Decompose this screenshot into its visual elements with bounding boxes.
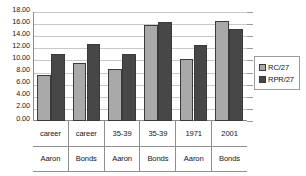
bar bbox=[215, 21, 229, 121]
x-axis-category-label-bottom: Aaron bbox=[105, 147, 140, 172]
x-axis-category-label-top: 35-39 bbox=[105, 121, 140, 147]
x-axis-category-cell: 1971Aaron bbox=[176, 121, 212, 171]
x-axis-category-label-top: 35-39 bbox=[140, 121, 175, 147]
x-axis-category-label-top: career bbox=[33, 121, 68, 147]
legend: RC/27RPR/27 bbox=[254, 56, 300, 90]
bars-layer bbox=[33, 12, 247, 121]
x-axis-category-cell: careerBonds bbox=[69, 121, 105, 171]
bar-group bbox=[104, 12, 140, 121]
bar-group bbox=[176, 12, 212, 121]
legend-item: RC/27 bbox=[259, 61, 294, 73]
x-axis-category-cell: 2001Bonds bbox=[212, 121, 247, 171]
y-axis-tick-label: 10.00 bbox=[12, 52, 30, 61]
bar bbox=[73, 63, 87, 121]
x-axis-category-label-top: 1971 bbox=[176, 121, 211, 147]
x-axis-category-label-bottom: Bonds bbox=[212, 147, 247, 172]
y-axis-tick-label: 8.00 bbox=[16, 65, 30, 74]
right-axis-tick bbox=[247, 97, 253, 98]
right-axis-tick bbox=[247, 24, 253, 25]
right-axis-tick bbox=[247, 121, 253, 122]
right-axis-tick bbox=[247, 48, 253, 49]
x-axis-category-label-bottom: Aaron bbox=[176, 147, 211, 172]
bar-group bbox=[211, 12, 247, 121]
right-axis-tick bbox=[247, 12, 253, 13]
y-axis-tick-label: 16.00 bbox=[12, 16, 30, 25]
bar-group bbox=[140, 12, 176, 121]
x-axis-category-label-bottom: Aaron bbox=[33, 147, 68, 172]
bar bbox=[194, 45, 208, 121]
bar bbox=[37, 75, 51, 121]
bar bbox=[180, 59, 194, 121]
bar bbox=[51, 54, 65, 121]
y-axis: 18.0016.0014.0012.0010.008.006.004.002.0… bbox=[0, 8, 33, 121]
right-axis-tick bbox=[247, 109, 253, 110]
bar bbox=[122, 54, 136, 121]
y-axis-tick-label: 12.00 bbox=[12, 40, 30, 49]
right-axis-tick bbox=[247, 85, 253, 86]
y-axis-tick-label: 0.00 bbox=[16, 113, 30, 122]
bar bbox=[144, 25, 158, 121]
x-axis-category-label-top: career bbox=[69, 121, 104, 147]
bar-chart: 18.0016.0014.0012.0010.008.006.004.002.0… bbox=[0, 0, 306, 176]
bar bbox=[87, 44, 101, 121]
bar-group bbox=[33, 12, 69, 121]
x-axis-category-label-top: 2001 bbox=[212, 121, 247, 147]
x-axis-category-table: careerAaroncareerBonds35-39Aaron35-39Bon… bbox=[33, 121, 247, 172]
right-axis-tick bbox=[247, 36, 253, 37]
y-axis-tick-label: 2.00 bbox=[16, 101, 30, 110]
x-axis-category-label-bottom: Bonds bbox=[140, 147, 175, 172]
bar bbox=[229, 29, 243, 121]
right-axis-tick bbox=[247, 73, 253, 74]
bar bbox=[108, 69, 122, 121]
y-axis-tick-label: 4.00 bbox=[16, 89, 30, 98]
legend-swatch-icon bbox=[259, 64, 266, 71]
legend-item: RPR/27 bbox=[259, 73, 294, 85]
y-axis-tick-label: 14.00 bbox=[12, 28, 30, 37]
x-axis-category-cell: 35-39Aaron bbox=[105, 121, 141, 171]
right-axis-ticks bbox=[247, 12, 254, 122]
y-axis-tick-label: 6.00 bbox=[16, 77, 30, 86]
bar-group bbox=[69, 12, 105, 121]
bar bbox=[158, 22, 172, 121]
x-axis-category-cell: 35-39Bonds bbox=[140, 121, 176, 171]
right-axis-tick bbox=[247, 60, 253, 61]
legend-item-label: RC/27 bbox=[268, 63, 289, 72]
legend-swatch-icon bbox=[259, 76, 266, 83]
x-axis-category-label-bottom: Bonds bbox=[69, 147, 104, 172]
y-axis-tick-label: 18.00 bbox=[12, 4, 30, 13]
x-axis-category-cell: careerAaron bbox=[33, 121, 69, 171]
legend-item-label: RPR/27 bbox=[268, 75, 294, 84]
